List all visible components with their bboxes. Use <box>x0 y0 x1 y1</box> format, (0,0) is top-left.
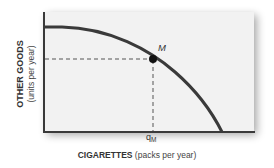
x-tick-qm: qM <box>146 132 156 143</box>
y-axis-label: OTHER GOODS (units per year) <box>12 28 40 120</box>
tick-subscript: M <box>151 136 156 143</box>
plot-area <box>44 12 254 132</box>
y-axis-unit: (units per year) <box>26 40 37 108</box>
x-axis-title: CIGARETTES <box>78 150 133 160</box>
x-axis-label: CIGARETTES (packs per year) <box>0 150 274 160</box>
chart-svg <box>0 0 274 168</box>
point-m <box>149 55 157 63</box>
x-axis-unit: (packs per year) <box>135 150 196 160</box>
point-m-label: M <box>158 42 166 53</box>
production-possibilities-chart: OTHER GOODS (units per year) M qM CIGARE… <box>0 0 274 168</box>
y-axis-title: OTHER GOODS <box>15 40 26 108</box>
